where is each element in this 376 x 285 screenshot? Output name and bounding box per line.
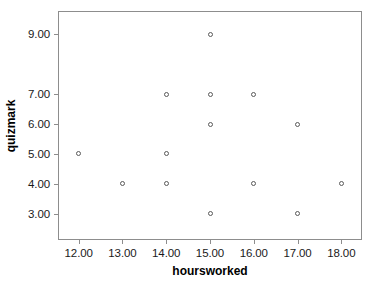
y-axis-tick-label: 9.00 <box>28 28 50 40</box>
x-axis-tick <box>298 239 299 244</box>
x-axis-tick-label: 15.00 <box>196 247 224 259</box>
data-point <box>164 151 169 156</box>
x-axis-tick-label: 18.00 <box>327 247 355 259</box>
x-axis-tick-label: 12.00 <box>65 247 93 259</box>
y-axis-title: quizmark <box>0 11 22 240</box>
y-axis-tick <box>54 154 59 155</box>
y-axis-tick <box>54 124 59 125</box>
x-axis-tick-label: 16.00 <box>240 247 268 259</box>
data-point <box>208 122 213 127</box>
data-point <box>295 122 300 127</box>
x-axis-tick <box>79 239 80 244</box>
data-point <box>251 181 256 186</box>
y-axis-tick-label: 3.00 <box>28 208 50 220</box>
x-axis-tick-label: 17.00 <box>283 247 311 259</box>
y-axis-tick-label: 4.00 <box>28 178 50 190</box>
x-axis-tick-label: 14.00 <box>152 247 180 259</box>
plot-frame: 3.004.005.006.007.009.0012.0013.0014.001… <box>58 11 362 240</box>
data-point <box>295 211 300 216</box>
x-axis-title-label: hoursworked <box>172 264 247 278</box>
plot-area: 3.004.005.006.007.009.0012.0013.0014.001… <box>59 12 361 239</box>
x-axis-tick <box>122 239 123 244</box>
x-axis-title: hoursworked <box>58 264 362 278</box>
y-axis-tick-label: 5.00 <box>28 148 50 160</box>
data-point <box>164 181 169 186</box>
x-axis-tick <box>254 239 255 244</box>
y-axis-tick <box>54 94 59 95</box>
x-axis-tick-label: 13.00 <box>108 247 136 259</box>
data-point <box>76 151 81 156</box>
x-axis-tick <box>341 239 342 244</box>
y-axis-tick-label: 7.00 <box>28 88 50 100</box>
data-point <box>208 211 213 216</box>
y-axis-tick <box>54 214 59 215</box>
x-axis-tick <box>210 239 211 244</box>
scatter-plot: 3.004.005.006.007.009.0012.0013.0014.001… <box>0 0 376 285</box>
y-axis-tick-label: 6.00 <box>28 118 50 130</box>
y-axis-tick <box>54 184 59 185</box>
y-axis-title-label: quizmark <box>4 99 18 152</box>
data-point <box>208 92 213 97</box>
data-point <box>120 181 125 186</box>
y-axis-tick <box>54 34 59 35</box>
data-point <box>339 181 344 186</box>
data-point <box>251 92 256 97</box>
data-point <box>208 32 213 37</box>
data-point <box>164 92 169 97</box>
x-axis-tick <box>166 239 167 244</box>
